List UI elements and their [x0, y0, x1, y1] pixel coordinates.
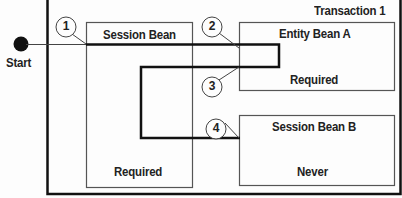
session-bean-title: Session Bean: [103, 27, 176, 42]
session-bean-b-attribute: Never: [297, 164, 328, 179]
callout-3-number: 3: [203, 79, 221, 93]
callout-4-number: 4: [207, 121, 225, 135]
session-bean-box: [87, 23, 193, 188]
callout-1-number: 1: [57, 19, 75, 33]
entity-bean-a-attribute: Required: [290, 72, 338, 87]
callout-4-leader: [225, 123, 239, 138]
callout-3-leader: [219, 67, 239, 80]
session-bean-attribute: Required: [114, 164, 162, 179]
start-label: Start: [6, 55, 31, 70]
transaction-label: Transaction 1: [314, 3, 385, 18]
entity-bean-a-title: Entity Bean A: [279, 26, 351, 41]
call-path: [86, 45, 279, 139]
session-bean-b-title: Session Bean B: [272, 119, 356, 134]
callout-1-leader: [72, 34, 86, 44]
callout-2-number: 2: [203, 19, 221, 33]
